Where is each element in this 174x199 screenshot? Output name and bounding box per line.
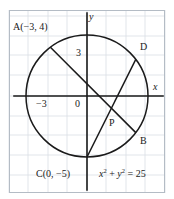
equation-value: 25 (136, 168, 146, 179)
point-label-a: A(−3, 4) (13, 22, 48, 32)
chord-ab (50, 47, 135, 132)
point-label-c: C(0, −5) (36, 169, 70, 179)
chord-cd (87, 59, 136, 157)
origin-label: 0 (75, 99, 80, 109)
equation-plus: + (107, 168, 118, 179)
circle-equation: x2 + y2 = 25 (99, 169, 146, 179)
x-tick-neg3-label: −3 (36, 99, 47, 109)
point-label-d: D (140, 42, 147, 52)
coordinate-geometry-figure: y x 3 −3 0 A(−3, 4) D B P C(0, −5) x2 + … (0, 0, 174, 199)
x-axis-label: x (153, 82, 157, 92)
y-axis-label: y (89, 12, 93, 22)
point-label-b: B (140, 136, 147, 146)
point-label-p: P (109, 118, 115, 128)
equation-equals: = (125, 168, 136, 179)
y-tick-3-label: 3 (76, 48, 81, 58)
